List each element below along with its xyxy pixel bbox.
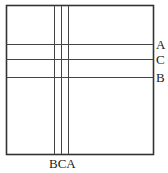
frame <box>7 6 154 155</box>
line-diagram: A C B BCA <box>0 0 168 173</box>
label-vertical-bca: BCA <box>49 156 76 171</box>
label-horizontal-c: C <box>156 52 165 67</box>
label-horizontal-b: B <box>156 70 165 85</box>
label-horizontal-a: A <box>156 37 166 52</box>
